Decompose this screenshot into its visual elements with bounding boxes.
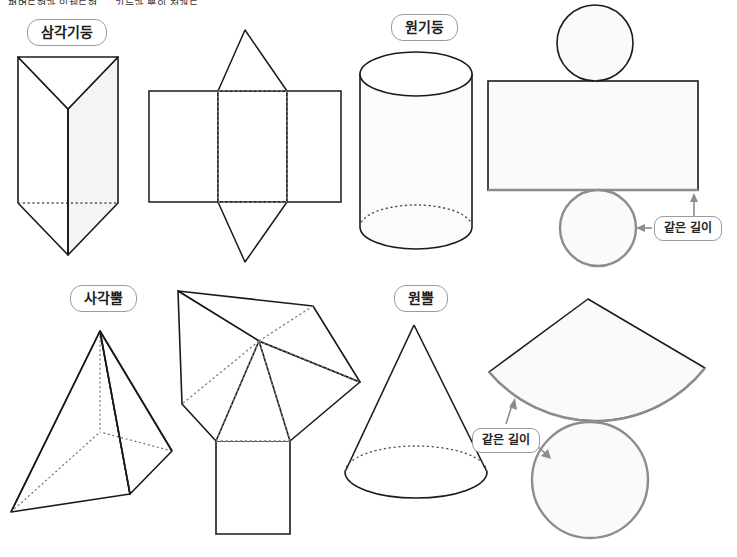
cone-net bbox=[489, 299, 705, 538]
figure-label-square-pyramid: 사각뿔 bbox=[70, 285, 137, 312]
diagram-canvas: 평면도형과 입체도형 — 기둥과 뿔의 전개도 bbox=[0, 0, 737, 557]
square-pyramid-net bbox=[178, 291, 360, 534]
square-pyramid-solid bbox=[11, 331, 172, 512]
cylinder-solid bbox=[360, 52, 472, 249]
triangular-prism-net bbox=[149, 30, 341, 262]
callout-cone-same-length: 같은 길이 bbox=[472, 428, 540, 453]
cone-solid bbox=[345, 325, 487, 498]
figure-label-cone: 원뿔 bbox=[394, 285, 448, 312]
callout-cylinder-same-length: 같은 길이 bbox=[654, 216, 722, 241]
triangular-prism-solid bbox=[18, 57, 118, 255]
figure-label-cylinder: 원기둥 bbox=[391, 14, 458, 41]
geometry-artwork bbox=[0, 0, 737, 557]
figure-label-triangular-prism: 삼각기둥 bbox=[27, 19, 107, 46]
